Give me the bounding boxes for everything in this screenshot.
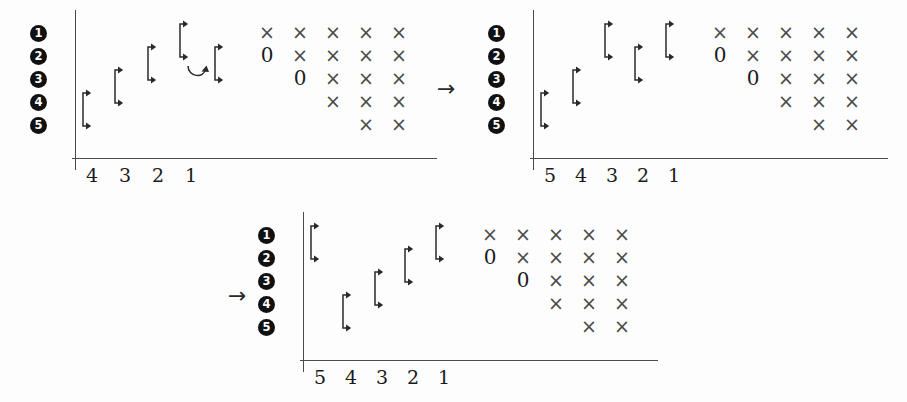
grid-cross-4-3: × (546, 293, 566, 313)
grid-cross-1-5: × (842, 22, 862, 42)
connector-c1-r2r3 (210, 43, 232, 84)
grid-cross-5-5: × (389, 114, 409, 134)
connector-c2-r2r3 (400, 245, 422, 286)
grid-cross-2-5: × (842, 45, 862, 65)
column-tick-2: 2 (150, 166, 166, 185)
row-label-badge-4: 4 (30, 94, 47, 111)
grid-cross-3-5: × (389, 68, 409, 88)
grid-cross-2-2: × (290, 45, 310, 65)
vertical-axis (533, 10, 534, 170)
column-tick-3: 3 (117, 166, 133, 185)
grid-cross-2-2: × (513, 247, 533, 267)
grid-cross-1-4: × (356, 22, 376, 42)
row-label-badge-3: 3 (30, 71, 47, 88)
grid-cross-3-4: × (579, 270, 599, 290)
grid-cross-4-4: × (579, 293, 599, 313)
grid-zero-2-1: 0 (480, 247, 500, 267)
grid-cross-3-3: × (776, 68, 796, 88)
column-tick-1: 1 (183, 166, 199, 185)
grid-cross-2-3: × (776, 45, 796, 65)
grid-cross-4-4: × (809, 91, 829, 111)
column-tick-4: 4 (343, 368, 359, 387)
connector-c3-r1r2 (600, 20, 622, 61)
row-label-badge-5: 5 (258, 319, 275, 336)
grid-zero-3-2: 0 (743, 68, 763, 88)
row-label-badge-2: 2 (488, 48, 505, 65)
row-label-badge-2: 2 (30, 48, 47, 65)
grid-cross-3-5: × (612, 270, 632, 290)
row-label-badge-4: 4 (258, 296, 275, 313)
row-label-badge-5: 5 (30, 117, 47, 134)
grid-cross-2-4: × (356, 45, 376, 65)
grid-cross-5-5: × (612, 316, 632, 336)
row-label-badge-5: 5 (488, 117, 505, 134)
column-tick-1: 1 (436, 368, 452, 387)
column-tick-1: 1 (666, 166, 682, 185)
grid-cross-5-4: × (809, 114, 829, 134)
grid-cross-1-3: × (323, 22, 343, 42)
transition-arrow-1: → (437, 78, 455, 100)
diagram-panel-1: 123454321×××××0××××0×××××××× (20, 6, 447, 196)
column-tick-3: 3 (604, 166, 620, 185)
connector-c4-r3r4 (568, 66, 590, 107)
connector-c4-r4r5 (338, 291, 360, 332)
diagram-panel-3: 1234554321×××××0××××0×××××××× (248, 208, 668, 398)
connector-c2-r2r3 (630, 43, 652, 84)
grid-cross-1-5: × (389, 22, 409, 42)
grid-cross-1-2: × (290, 22, 310, 42)
transition-arrow-2: → (228, 285, 246, 307)
row-label-badge-1: 1 (30, 25, 47, 42)
grid-zero-2-1: 0 (257, 45, 277, 65)
connector-c4-r4r5 (78, 89, 100, 130)
connector-c1-r1r2 (661, 20, 683, 61)
column-tick-2: 2 (405, 368, 421, 387)
column-tick-4: 4 (84, 166, 100, 185)
grid-cross-3-4: × (809, 68, 829, 88)
connector-c5-r4r5 (536, 89, 558, 130)
row-label-badge-3: 3 (258, 273, 275, 290)
grid-cross-3-4: × (356, 68, 376, 88)
row-label-badge-2: 2 (258, 250, 275, 267)
grid-cross-1-4: × (809, 22, 829, 42)
grid-zero-3-2: 0 (513, 270, 533, 290)
grid-cross-4-5: × (612, 293, 632, 313)
grid-cross-2-2: × (743, 45, 763, 65)
column-tick-5: 5 (542, 166, 558, 185)
grid-cross-5-5: × (842, 114, 862, 134)
horizontal-axis (530, 158, 888, 159)
connector-c5-r1r2 (306, 222, 328, 263)
grid-cross-1-2: × (743, 22, 763, 42)
grid-cross-5-4: × (579, 316, 599, 336)
connector-c3-r3r4 (110, 66, 132, 107)
grid-cross-4-4: × (356, 91, 376, 111)
grid-cross-1-3: × (776, 22, 796, 42)
vertical-axis (303, 212, 304, 372)
horizontal-axis (72, 158, 437, 159)
row-label-badge-3: 3 (488, 71, 505, 88)
grid-cross-4-5: × (389, 91, 409, 111)
grid-cross-3-3: × (323, 68, 343, 88)
connector-c1b-r1r2 (175, 20, 197, 61)
grid-cross-1-1: × (480, 224, 500, 244)
horizontal-axis (300, 360, 658, 361)
grid-cross-2-5: × (612, 247, 632, 267)
row-label-badge-1: 1 (488, 25, 505, 42)
grid-cross-4-3: × (776, 91, 796, 111)
connector-c2-r2r3 (143, 43, 165, 84)
grid-zero-3-2: 0 (290, 68, 310, 88)
column-tick-3: 3 (374, 368, 390, 387)
figure-canvas: 123454321×××××0××××0××××××××1234554321××… (0, 0, 907, 402)
grid-cross-1-3: × (546, 224, 566, 244)
grid-cross-2-4: × (579, 247, 599, 267)
grid-cross-1-1: × (257, 22, 277, 42)
diagram-panel-2: 1234554321×××××0××××0×××××××× (478, 6, 898, 196)
row-label-badge-1: 1 (258, 227, 275, 244)
column-tick-5: 5 (312, 368, 328, 387)
grid-cross-4-5: × (842, 91, 862, 111)
grid-cross-2-4: × (809, 45, 829, 65)
connector-c1-r1r2 (431, 222, 453, 263)
grid-cross-3-5: × (842, 68, 862, 88)
grid-cross-1-4: × (579, 224, 599, 244)
column-tick-4: 4 (573, 166, 589, 185)
grid-cross-2-3: × (323, 45, 343, 65)
